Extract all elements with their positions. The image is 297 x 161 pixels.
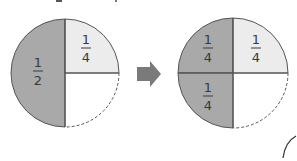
svg-text:1: 1 <box>252 32 260 47</box>
cropped-text-fragment <box>115 0 117 2</box>
top-right-quarter-segment <box>65 19 119 73</box>
svg-text:1: 1 <box>204 80 212 95</box>
fraction-label-top-left: 1 4 <box>203 32 213 65</box>
svg-text:1: 1 <box>34 55 42 70</box>
fraction-label-top-right: 1 4 <box>251 32 261 65</box>
fraction-label-one-quarter: 1 4 <box>81 32 91 65</box>
svg-text:4: 4 <box>204 98 212 113</box>
fraction-diagram: 1 2 1 4 1 4 1 4 1 <box>0 0 297 161</box>
left-circle: 1 2 1 4 <box>11 19 119 127</box>
right-arrow-icon <box>137 61 161 87</box>
svg-text:4: 4 <box>204 50 212 65</box>
svg-text:1: 1 <box>82 32 90 47</box>
svg-text:2: 2 <box>34 73 42 88</box>
bottom-right-quarter-segment <box>233 73 288 128</box>
svg-text:4: 4 <box>252 50 260 65</box>
top-right-quarter-segment <box>233 18 288 73</box>
cropped-text-fragment <box>56 0 62 2</box>
cropped-arc-fragment <box>283 136 296 158</box>
right-circle: 1 4 1 4 1 4 <box>178 18 288 128</box>
svg-text:1: 1 <box>204 32 212 47</box>
bottom-right-quarter-segment <box>65 73 119 127</box>
fraction-label-one-half: 1 2 <box>33 55 43 88</box>
fraction-label-bottom-left: 1 4 <box>203 80 213 113</box>
svg-text:4: 4 <box>82 50 90 65</box>
